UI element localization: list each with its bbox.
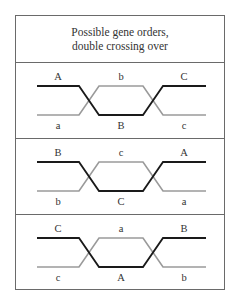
dark-chromatid (37, 162, 206, 191)
gene-order-panel-2: B c A b C a (16, 139, 224, 215)
dark-chromatid (37, 86, 206, 115)
top-label-left: A (54, 71, 62, 82)
top-label-left: B (54, 147, 61, 158)
gene-order-panel-1: A b C a B c (16, 63, 224, 139)
bottom-label-middle: C (117, 196, 124, 207)
diagram-title: Possible gene orders, double crossing ov… (16, 16, 224, 63)
bottom-label-right: a (182, 196, 187, 207)
top-label-middle: b (118, 71, 123, 82)
top-label-right: C (180, 71, 187, 82)
light-chromatid (37, 86, 206, 115)
light-chromatid (37, 238, 206, 267)
bottom-label-left: c (56, 272, 61, 283)
title-line-2: double crossing over (72, 39, 168, 53)
top-label-middle: a (119, 223, 124, 234)
gene-order-diagram: Possible gene orders, double crossing ov… (15, 15, 225, 290)
dark-chromatid (37, 238, 206, 267)
gene-order-panel-3: C a B c A b (16, 214, 224, 289)
double-crossover-strands: C a B c A b (16, 214, 224, 289)
top-label-right: B (180, 223, 187, 234)
top-label-middle: c (119, 147, 124, 158)
double-crossover-strands: B c A b C a (16, 139, 224, 214)
double-crossover-strands: A b C a B c (16, 63, 224, 138)
title-line-1: Possible gene orders, (71, 25, 168, 39)
bottom-label-right: c (182, 120, 187, 131)
bottom-label-middle: A (117, 272, 125, 283)
bottom-label-right: b (181, 272, 186, 283)
top-label-left: C (54, 223, 61, 234)
bottom-label-left: b (55, 196, 60, 207)
bottom-label-left: a (56, 120, 61, 131)
bottom-label-middle: B (117, 120, 124, 131)
top-label-right: A (180, 147, 188, 158)
light-chromatid (37, 162, 206, 191)
